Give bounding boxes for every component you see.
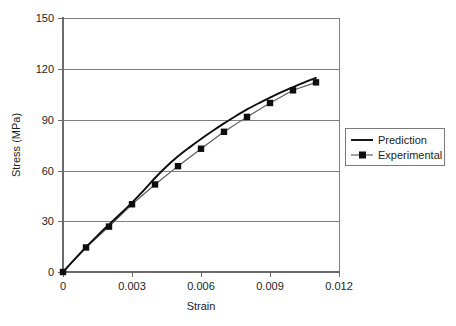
x-tick-label-0006: 0.006	[187, 280, 215, 292]
y-tick-label-0: 0	[48, 266, 54, 278]
data-point-marker	[83, 244, 89, 250]
stress-strain-chart: 150 120 90 60 30 0 0 0.003 0.006 0.009 0…	[0, 0, 456, 326]
x-tick-label-0: 0	[60, 280, 66, 292]
y-tick-label-120: 120	[36, 63, 54, 75]
legend-label-prediction: Prediction	[378, 134, 427, 146]
data-point-marker	[221, 129, 227, 135]
x-tick-label-0009: 0.009	[256, 280, 284, 292]
data-point-marker	[60, 269, 66, 275]
data-point-marker	[267, 100, 273, 106]
data-point-marker	[152, 181, 158, 187]
legend-swatch-experimental-marker	[359, 152, 366, 159]
data-point-marker	[106, 223, 112, 229]
legend-label-experimental: Experimental	[378, 149, 442, 161]
x-tick-label-0003: 0.003	[118, 280, 146, 292]
data-point-marker	[175, 163, 181, 169]
y-tick-label-30: 30	[42, 215, 54, 227]
x-axis-title: Strain	[187, 300, 216, 312]
data-point-marker	[313, 79, 319, 85]
y-tick-label-90: 90	[42, 114, 54, 126]
data-point-marker	[129, 201, 135, 207]
data-point-marker	[290, 87, 296, 93]
x-tick-label-0012: 0.012	[325, 280, 353, 292]
data-point-marker	[198, 146, 204, 152]
legend: Prediction Experimental	[345, 128, 444, 165]
y-tick-label-150: 150	[36, 12, 54, 24]
y-axis-title: Stress (MPa)	[10, 113, 22, 177]
y-tick-label-60: 60	[42, 165, 54, 177]
data-point-marker	[244, 114, 250, 120]
